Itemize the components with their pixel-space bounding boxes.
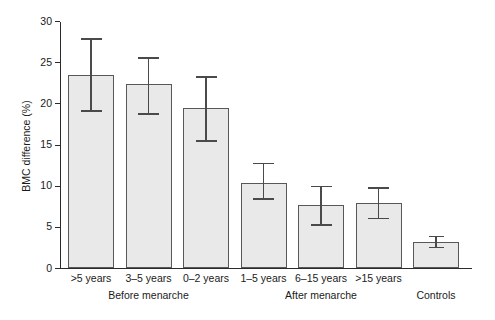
error-bar-line bbox=[205, 76, 207, 140]
x-axis-group-label: Controls bbox=[413, 289, 459, 301]
y-axis-tick bbox=[55, 268, 60, 269]
error-bar-line bbox=[435, 236, 437, 247]
figure: BMC difference (%) 051015202530 >5 years… bbox=[0, 0, 495, 320]
y-axis-tick bbox=[55, 62, 60, 63]
error-bar-cap-lower bbox=[196, 140, 217, 142]
error-bar-cap-upper bbox=[368, 187, 389, 189]
bar-chart-plot: BMC difference (%) 051015202530 >5 years… bbox=[0, 0, 495, 320]
error-bar-cap-lower bbox=[253, 198, 274, 200]
y-axis-tick-label: 0 bbox=[20, 263, 52, 274]
y-axis-tick bbox=[55, 103, 60, 104]
y-axis-tick bbox=[55, 21, 60, 22]
y-axis-tick-label: 5 bbox=[20, 221, 52, 232]
y-axis-line bbox=[60, 22, 61, 269]
y-axis-tick-label-text: 5 bbox=[20, 221, 52, 232]
y-axis-tick-label-text: 30 bbox=[20, 16, 52, 27]
y-axis-tick bbox=[55, 145, 60, 146]
x-axis-line bbox=[60, 268, 472, 269]
error-bar-cap-upper bbox=[311, 186, 332, 188]
error-bar-cap-lower bbox=[81, 110, 102, 112]
y-axis-tick-label-text: 20 bbox=[20, 98, 52, 109]
error-bar-cap-upper bbox=[81, 38, 102, 40]
y-axis-tick-label-text: 15 bbox=[20, 139, 52, 150]
error-bar-cap-upper bbox=[196, 76, 217, 78]
y-axis-tick-label: 15 bbox=[20, 139, 52, 150]
x-axis-group-label: Before menarche bbox=[68, 289, 229, 301]
y-axis-tick-label: 20 bbox=[20, 98, 52, 109]
error-bar-cap-lower bbox=[311, 224, 332, 226]
error-bar-line bbox=[263, 163, 265, 198]
error-bar-cap-upper bbox=[429, 236, 444, 238]
figure-caption-bottom bbox=[0, 311, 495, 320]
y-axis-tick-label: 10 bbox=[20, 180, 52, 191]
y-axis-tick-label-text: 0 bbox=[20, 263, 52, 274]
error-bar-line bbox=[148, 57, 150, 113]
error-bar-cap-lower bbox=[429, 247, 444, 249]
y-axis-tick-label-text: 25 bbox=[20, 57, 52, 68]
error-bar-line bbox=[378, 187, 380, 217]
y-axis-tick bbox=[55, 227, 60, 228]
y-axis-tick bbox=[55, 186, 60, 187]
y-axis-tick-label-text: 10 bbox=[20, 180, 52, 191]
y-axis-tick-label: 25 bbox=[20, 57, 52, 68]
error-bar-cap-lower bbox=[138, 113, 159, 115]
x-axis-category-label: >15 years bbox=[344, 272, 414, 284]
error-bar-line bbox=[90, 38, 92, 110]
error-bar-cap-lower bbox=[368, 218, 389, 220]
error-bar-cap-upper bbox=[138, 57, 159, 59]
x-axis-group-label: After menarche bbox=[241, 289, 402, 301]
error-bar-cap-upper bbox=[253, 163, 274, 165]
error-bar-line bbox=[320, 186, 322, 225]
y-axis-tick-label: 30 bbox=[20, 16, 52, 27]
